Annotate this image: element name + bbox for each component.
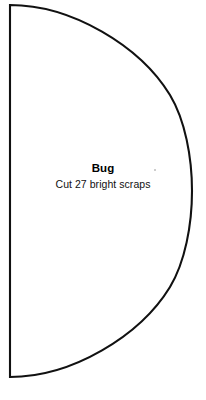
scan-speck-artifact (154, 169, 156, 171)
pattern-sheet: Bug Cut 27 bright scraps (0, 0, 206, 400)
pattern-piece-shape (0, 0, 206, 400)
half-ellipse-outline (10, 5, 192, 377)
